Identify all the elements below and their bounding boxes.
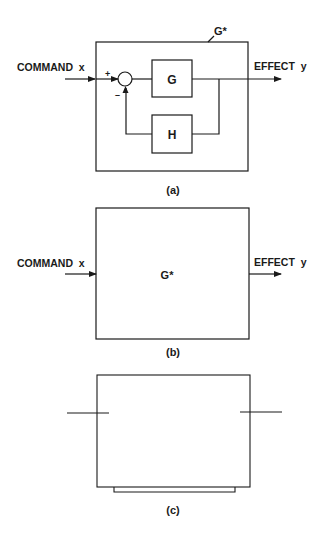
input-label-b: COMMAND x (17, 257, 85, 269)
diagram-a (65, 36, 281, 171)
feedback-return-line (126, 88, 152, 134)
caption-b: (b) (166, 346, 180, 358)
figure-canvas: G* COMMAND x EFFECT y G H + – (a) G* COM… (0, 0, 327, 542)
gstar-label-b: G* (161, 269, 175, 281)
summing-junction (118, 72, 132, 86)
caption-a: (a) (166, 184, 180, 196)
output-label-b: EFFECT y (254, 256, 307, 268)
feedback-arrowhead (123, 86, 129, 93)
gstar-label-a: G* (214, 25, 228, 37)
output-label-a: EFFECT y (254, 60, 307, 72)
caption-c: (c) (166, 504, 180, 516)
block-c (97, 375, 250, 487)
input-label-a: COMMAND x (17, 61, 85, 73)
diagram-c (67, 375, 282, 492)
feedback-pickoff-line (192, 79, 219, 134)
outer-system-box (96, 42, 248, 171)
plus-sign: + (105, 69, 110, 79)
h-block-label: H (168, 128, 177, 142)
base-tab-c (114, 487, 235, 492)
g-block-label: G (167, 73, 176, 87)
minus-sign: – (115, 90, 120, 100)
